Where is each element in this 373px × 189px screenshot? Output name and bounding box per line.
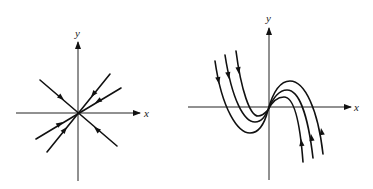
arrow-icon xyxy=(225,72,231,80)
right-x-label: x xyxy=(353,101,359,113)
left-phase-portrait: x y xyxy=(16,27,149,181)
right-phase-portrait: x y xyxy=(188,12,359,180)
left-x-label: x xyxy=(143,107,149,119)
arrow-icon xyxy=(235,67,241,75)
diagram-canvas: x y x y xyxy=(0,0,373,189)
left-y-label: y xyxy=(74,27,80,39)
right-y-label: y xyxy=(265,12,271,24)
